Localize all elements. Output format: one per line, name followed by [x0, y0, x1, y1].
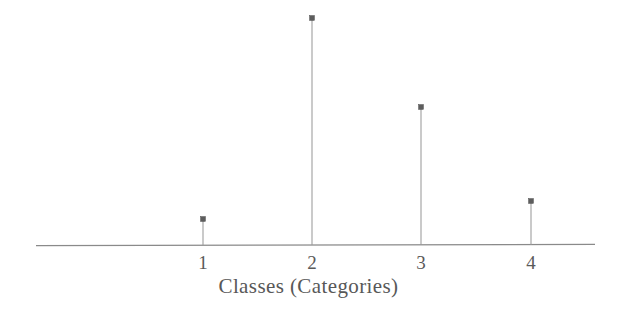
- stem-group-1: [201, 217, 206, 245]
- x-axis-line: [36, 244, 595, 245]
- stem-group-4: [529, 199, 534, 245]
- stem-group-2: [310, 16, 315, 245]
- stem-marker-1: [201, 217, 206, 222]
- stem-group-3: [419, 105, 424, 245]
- x-tick-label-3: 3: [401, 253, 441, 272]
- stem-marker-4: [529, 199, 534, 204]
- stem-marker-2: [310, 16, 315, 21]
- stem-marker-3: [419, 105, 424, 110]
- x-tick-label-2: 2: [292, 253, 332, 272]
- x-axis-title: Classes (Categories): [0, 276, 617, 297]
- figure-canvas: 1 2 3 4 Classes (Categories): [0, 0, 617, 319]
- x-tick-label-1: 1: [183, 253, 223, 272]
- x-tick-label-4: 4: [511, 253, 551, 272]
